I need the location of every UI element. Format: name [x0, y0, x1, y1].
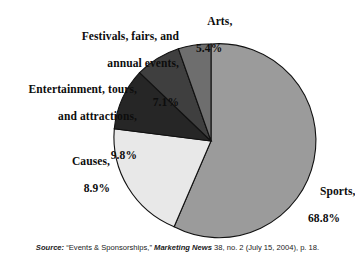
source-publication: Marketing News [154, 243, 212, 252]
pie-label-causes-value: 8.9% [0, 182, 110, 195]
figure-container: Arts, 5.4% Festivals, fairs, and annual … [0, 0, 355, 261]
pie-label-entertainment-line2: and attractions, [0, 110, 137, 123]
pie-label-arts-value: 5.4% [196, 42, 232, 55]
source-prefix: Source: [36, 243, 64, 252]
pie-label-entertainment-line1: Entertainment, tours, [29, 83, 137, 95]
pie-label-causes: Causes, 8.9% [0, 142, 110, 221]
source-citation: Source: “Events & Sponsorships,” Marketi… [0, 243, 355, 253]
pie-label-sports-value: 68.8% [308, 212, 354, 225]
source-citation-detail: 38, no. 2 (July 15, 2004), p. 18. [214, 243, 319, 252]
pie-label-arts: Arts, 5.4% [196, 2, 232, 81]
pie-label-sports-name: Sports, [320, 185, 355, 197]
source-article-title: “Events & Sponsorships,” [66, 243, 152, 252]
pie-label-arts-name: Arts, [207, 15, 232, 27]
pie-label-causes-name: Causes, [72, 155, 110, 167]
pie-label-sports: Sports, 68.8% [308, 172, 354, 251]
pie-label-festivals-line1: Festivals, fairs, and [82, 30, 179, 42]
pie-label-festivals-line2: annual events, [14, 57, 179, 70]
